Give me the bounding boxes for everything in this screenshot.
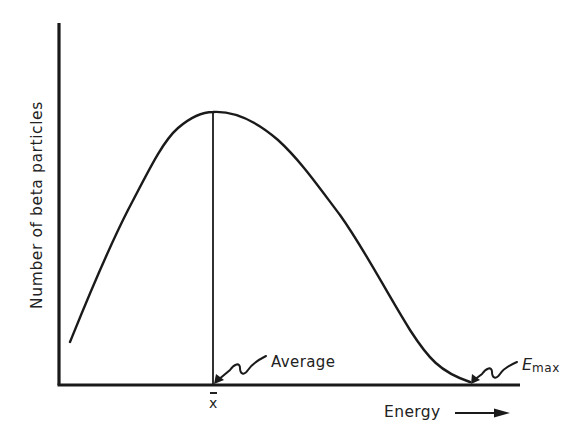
emax-arrow-icon <box>471 362 517 384</box>
average-arrow-icon <box>214 356 266 384</box>
energy-direction-arrow-icon <box>455 409 510 418</box>
overbar <box>210 392 217 394</box>
emax-annotation: Emax <box>522 355 560 374</box>
x-axis-label: Energy <box>384 403 441 421</box>
y-axis-label: Number of beta particles <box>28 101 46 309</box>
average-annotation: Average <box>271 353 335 371</box>
x-bar-tick-label: x <box>209 392 217 411</box>
spectrum-curve <box>70 112 470 382</box>
beta-spectrum-chart <box>0 0 586 445</box>
emax-subscript: max <box>532 361 560 375</box>
x-bar-text: x <box>209 395 217 411</box>
emax-main: E <box>522 355 532 374</box>
